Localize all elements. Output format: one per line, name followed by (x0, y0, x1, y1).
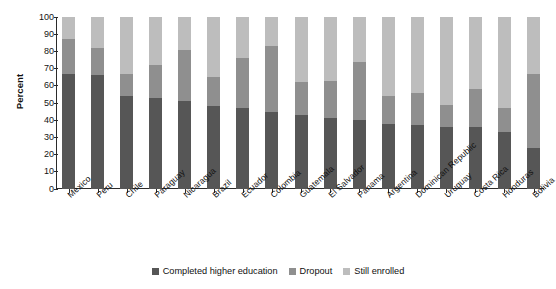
bar-column[interactable] (120, 17, 133, 189)
y-tick-label: 70 (22, 64, 54, 73)
legend-swatch-icon (289, 268, 296, 275)
bar-series-group (56, 17, 544, 189)
bar-segment-enrolled[interactable] (353, 17, 366, 62)
legend-item[interactable]: Dropout (289, 266, 333, 276)
legend-swatch-icon (343, 268, 350, 275)
y-tick-label: 30 (22, 133, 54, 142)
legend-label: Still enrolled (354, 266, 404, 276)
bar-segment-enrolled[interactable] (469, 17, 482, 89)
bar-segment-dropout[interactable] (324, 81, 337, 119)
bar-segment-dropout[interactable] (149, 65, 162, 98)
bar-segment-dropout[interactable] (382, 96, 395, 124)
y-tick-label: 0 (22, 185, 54, 194)
y-axis-title: Percent (14, 57, 25, 127)
bar-segment-enrolled[interactable] (440, 17, 453, 105)
bar-segment-enrolled[interactable] (207, 17, 220, 77)
bar-column[interactable] (236, 17, 249, 189)
bar-segment-completed[interactable] (62, 74, 75, 189)
y-tick-label: 20 (22, 150, 54, 159)
bar-segment-enrolled[interactable] (149, 17, 162, 65)
bar-column[interactable] (178, 17, 191, 189)
bar-segment-dropout[interactable] (440, 105, 453, 127)
bar-segment-enrolled[interactable] (527, 17, 540, 74)
y-tick-label: 100 (22, 13, 54, 22)
bar-column[interactable] (207, 17, 220, 189)
bar-segment-completed[interactable] (236, 108, 249, 189)
legend-label: Dropout (300, 266, 333, 276)
bar-segment-dropout[interactable] (178, 50, 191, 102)
y-tick-label: 50 (22, 99, 54, 108)
bar-segment-dropout[interactable] (527, 74, 540, 148)
chart-legend: Completed higher educationDropoutStill e… (0, 266, 556, 276)
bar-segment-dropout[interactable] (411, 93, 424, 126)
legend-item[interactable]: Still enrolled (343, 266, 404, 276)
bar-segment-enrolled[interactable] (236, 17, 249, 58)
bar-column[interactable] (265, 17, 278, 189)
legend-item[interactable]: Completed higher education (152, 266, 278, 276)
bar-segment-dropout[interactable] (295, 82, 308, 115)
bar-segment-completed[interactable] (120, 96, 133, 189)
bar-segment-enrolled[interactable] (120, 17, 133, 74)
stacked-bar-chart: Percent 1009080706050403020100 MexicoPer… (0, 0, 556, 289)
bar-segment-enrolled[interactable] (91, 17, 104, 48)
bar-segment-enrolled[interactable] (382, 17, 395, 96)
bar-segment-enrolled[interactable] (265, 17, 278, 46)
bar-segment-enrolled[interactable] (178, 17, 191, 50)
bar-segment-enrolled[interactable] (324, 17, 337, 81)
bar-segment-enrolled[interactable] (498, 17, 511, 108)
y-tick-label: 80 (22, 47, 54, 56)
bar-column[interactable] (149, 17, 162, 189)
bar-column[interactable] (91, 17, 104, 189)
bar-column[interactable] (382, 17, 395, 189)
bar-segment-dropout[interactable] (236, 58, 249, 108)
bar-segment-completed[interactable] (498, 132, 511, 189)
legend-swatch-icon (152, 268, 159, 275)
bar-column[interactable] (324, 17, 337, 189)
bar-segment-dropout[interactable] (353, 62, 366, 120)
bar-column[interactable] (527, 17, 540, 189)
bar-segment-dropout[interactable] (62, 39, 75, 73)
legend-label: Completed higher education (163, 266, 278, 276)
bar-segment-dropout[interactable] (498, 108, 511, 132)
bar-segment-dropout[interactable] (207, 77, 220, 106)
y-tick-label: 90 (22, 30, 54, 39)
bar-segment-enrolled[interactable] (411, 17, 424, 93)
bar-segment-dropout[interactable] (120, 74, 133, 96)
bar-column[interactable] (295, 17, 308, 189)
bar-segment-enrolled[interactable] (62, 17, 75, 39)
bar-segment-dropout[interactable] (469, 89, 482, 127)
bar-column[interactable] (498, 17, 511, 189)
y-tick-label: 60 (22, 81, 54, 90)
x-axis-labels: MexicoPeruChileParaguayNicaraguaBrazilEc… (56, 193, 544, 255)
y-tick-label: 40 (22, 116, 54, 125)
y-tick-label: 10 (22, 167, 54, 176)
bar-column[interactable] (469, 17, 482, 189)
bar-segment-completed[interactable] (149, 98, 162, 189)
bar-segment-completed[interactable] (91, 75, 104, 189)
bar-segment-dropout[interactable] (91, 48, 104, 76)
bar-column[interactable] (62, 17, 75, 189)
bar-segment-dropout[interactable] (265, 46, 278, 111)
plot-area: 1009080706050403020100 (56, 17, 544, 189)
bar-segment-enrolled[interactable] (295, 17, 308, 82)
bar-column[interactable] (411, 17, 424, 189)
